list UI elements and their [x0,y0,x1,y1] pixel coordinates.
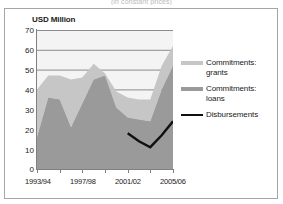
y-tick-label: 70 [12,27,34,35]
x-tick-mark [60,170,61,173]
x-tick-mark [173,170,174,173]
y-axis-unit-label: USD Million [32,15,75,24]
x-tick-mark [105,170,106,173]
legend-item-disbursements: Disbursements [181,110,279,124]
y-tick-label: 50 [12,67,34,75]
chart-figure: (in constant prices) USD Million 70 60 5… [0,0,283,204]
x-tick-mark [128,170,129,173]
chart-legend: Commitments: grants Commitments: loans D… [181,58,279,131]
figure-top-caption: (in constant prices) [0,0,283,5]
area-swatch-grants-icon [181,61,203,65]
x-tick-mark [150,170,151,173]
x-tick-label: 2005/06 [160,177,186,186]
y-tick-label: 0 [12,166,34,174]
line-swatch-disbursements-icon [181,114,203,116]
y-axis-line [36,29,37,170]
legend-item-commitments-loans: Commitments: loans [181,84,279,103]
y-tick-label: 10 [12,147,34,155]
x-tick-label: 1993/94 [25,177,51,186]
y-tick-label: 20 [12,127,34,135]
legend-label: Disbursements [206,110,279,120]
legend-label: Commitments: loans [206,84,279,103]
y-tick-label: 30 [12,107,34,115]
chart-svg [37,30,173,169]
y-tick-label: 40 [12,87,34,95]
area-swatch-loans-icon [181,87,203,91]
x-tick-mark [82,170,83,173]
plot-area [37,30,173,169]
x-tick-mark [37,170,38,173]
legend-item-commitments-grants: Commitments: grants [181,58,279,77]
x-tick-label: 2001/02 [115,177,141,186]
y-axis-tick-labels: 70 60 50 40 30 20 10 0 [8,0,34,204]
y-tick-label: 60 [12,47,34,55]
legend-label: Commitments: grants [206,58,279,77]
x-tick-label: 1997/98 [70,177,96,186]
